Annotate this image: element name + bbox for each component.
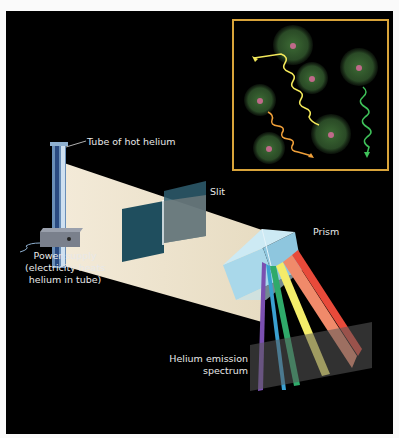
label-spectrum-line2: spectrum [168, 365, 248, 377]
label-power-line2: (electricity heats [25, 262, 105, 274]
label-power-supply: Power supply (electricity heats helium i… [25, 250, 105, 286]
label-tube: Tube of hot helium [87, 136, 175, 148]
label-spectrum-line1: Helium emission [168, 353, 248, 365]
label-slit: Slit [210, 186, 225, 198]
label-power-line3: helium in tube) [25, 274, 105, 286]
label-power-line1: Power supply [25, 250, 105, 262]
label-prism: Prism [313, 226, 339, 238]
label-spectrum: Helium emission spectrum [168, 353, 248, 377]
inset-atoms-box [233, 20, 388, 170]
